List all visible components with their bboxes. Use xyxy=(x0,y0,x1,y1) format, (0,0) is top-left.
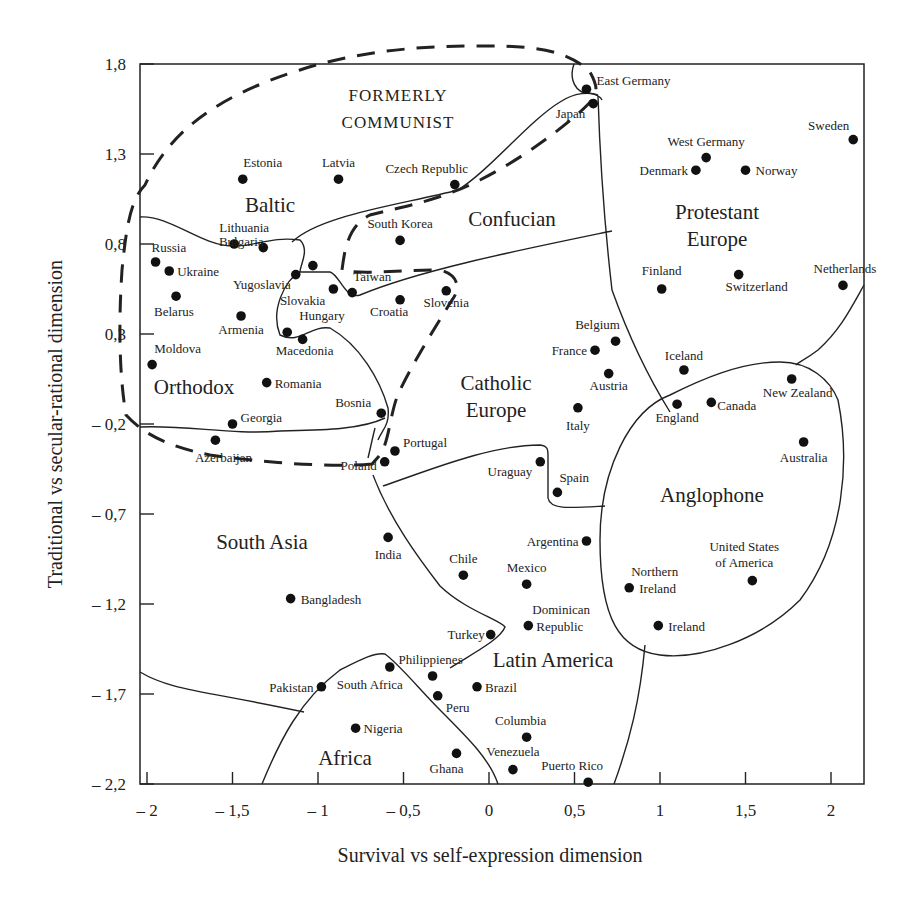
data-point xyxy=(385,662,395,672)
data-point xyxy=(748,576,758,586)
country-label: Austria xyxy=(590,378,629,393)
data-point xyxy=(536,457,546,467)
data-point xyxy=(522,732,532,742)
chart-svg: 1,81,30,80,3– 0,2– 0,7– 1,2– 1,7– 2,2 – … xyxy=(0,0,906,905)
cultural-map-chart: 1,81,30,80,3– 0,2– 0,7– 1,2– 1,7– 2,2 – … xyxy=(0,0,906,905)
x-axis: – 2– 1,5– 1– 0,500,511,52 xyxy=(135,772,835,820)
country-label: Norway xyxy=(756,163,798,178)
data-points: East GermanyJapanSwedenWest GermanyDenma… xyxy=(147,73,876,787)
data-point xyxy=(291,270,301,280)
country-label: Switzerland xyxy=(726,279,789,294)
region-label-latin-america: Latin America xyxy=(493,648,614,672)
country-label: Uraguay xyxy=(488,464,533,479)
data-point xyxy=(286,594,296,604)
country-label: Bosnia xyxy=(335,395,371,410)
y-tick-label: – 0,7 xyxy=(91,505,127,524)
data-point xyxy=(395,236,405,246)
data-point xyxy=(583,777,593,787)
country-label: Republic xyxy=(536,619,583,634)
country-label: India xyxy=(375,547,402,562)
country-label: Poland xyxy=(341,458,378,473)
region-label-baltic: Baltic xyxy=(245,193,295,217)
country-label: Estonia xyxy=(243,155,282,170)
country-label: Argentina xyxy=(527,534,579,549)
data-point xyxy=(524,621,534,631)
data-point xyxy=(376,408,386,418)
data-point xyxy=(838,281,848,291)
country-label: East Germany xyxy=(596,73,671,88)
x-tick-label: 2 xyxy=(827,801,836,820)
country-label: Ukraine xyxy=(177,264,219,279)
country-label: Ghana xyxy=(430,761,464,776)
data-point xyxy=(573,403,583,413)
data-point xyxy=(347,288,357,298)
region-label-africa: Africa xyxy=(318,746,372,770)
data-point xyxy=(701,153,711,163)
data-point xyxy=(151,257,161,267)
country-label: Georgia xyxy=(241,410,283,425)
data-point xyxy=(848,135,858,145)
data-point xyxy=(428,671,438,681)
country-label: Japan xyxy=(556,106,586,121)
data-point xyxy=(329,284,339,294)
data-point xyxy=(452,749,462,759)
x-tick-label: – 2 xyxy=(135,801,157,820)
country-label: Romania xyxy=(275,376,322,391)
data-point xyxy=(653,621,663,631)
data-point xyxy=(351,723,361,733)
data-point xyxy=(672,399,682,409)
data-point xyxy=(228,419,238,429)
country-label: Netherlands xyxy=(814,261,877,276)
country-label: Puerto Rico xyxy=(541,758,603,773)
data-point xyxy=(164,266,174,276)
data-point xyxy=(582,84,592,94)
country-label: Spain xyxy=(559,470,589,485)
region-label-catholic: Catholic xyxy=(460,371,531,395)
country-label: Bangladesh xyxy=(301,592,362,607)
data-point xyxy=(657,284,667,294)
country-label: Ireland xyxy=(668,619,705,634)
region-label-south-asia: South Asia xyxy=(216,530,308,554)
country-label: Russia xyxy=(152,240,187,255)
data-point xyxy=(147,360,157,370)
country-label: Brazil xyxy=(485,680,517,695)
data-point xyxy=(589,99,599,109)
data-point xyxy=(238,174,248,184)
x-tick-label: 0,5 xyxy=(564,801,585,820)
data-point xyxy=(486,630,496,640)
country-label: Ireland xyxy=(639,581,676,596)
data-point xyxy=(590,345,600,355)
country-label: Armenia xyxy=(218,322,264,337)
region-label-protestant: Protestant xyxy=(675,200,759,224)
protestant-catholic-boundary xyxy=(598,96,670,412)
data-point xyxy=(211,435,221,445)
x-tick-label: 1 xyxy=(656,801,665,820)
data-point xyxy=(171,291,181,301)
data-point xyxy=(522,579,532,589)
country-label: Sweden xyxy=(808,118,850,133)
data-point xyxy=(611,336,621,346)
country-label: Peru xyxy=(446,700,470,715)
region-label-communist: COMMUNIST xyxy=(342,113,455,132)
country-label: Belarus xyxy=(154,304,194,319)
data-point xyxy=(390,446,400,456)
country-label: Azerbaijan xyxy=(195,450,253,465)
southasia-latin-boundary xyxy=(373,475,505,668)
region-label-catholic-europe: Europe xyxy=(466,398,527,422)
data-point xyxy=(334,174,344,184)
country-label: Yugoslavia xyxy=(233,277,291,292)
country-label: France xyxy=(552,343,588,358)
y-tick-label: – 0,2 xyxy=(91,415,126,434)
region-label-orthodox: Orthodox xyxy=(154,375,235,399)
country-label: South Korea xyxy=(367,216,433,231)
country-label: Italy xyxy=(566,418,590,433)
country-label: United States xyxy=(709,539,779,554)
country-label: Venezuela xyxy=(486,744,540,759)
data-point xyxy=(262,378,272,388)
data-point xyxy=(308,261,318,271)
data-point xyxy=(582,536,592,546)
data-point xyxy=(282,327,292,337)
protestant-anglophone-boundary xyxy=(796,285,864,365)
y-tick-label: 1,3 xyxy=(105,145,126,164)
x-tick-label: – 1,5 xyxy=(215,801,250,820)
